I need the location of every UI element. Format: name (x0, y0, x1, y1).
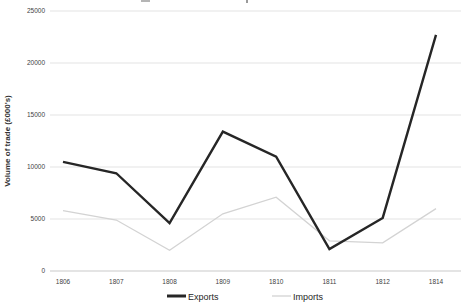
imports-legend-label: Imports (293, 292, 324, 302)
y-tick-label-25000: 25000 (27, 7, 45, 14)
legend: Exports Imports (167, 292, 324, 302)
x-tick-label-1810: 1810 (269, 278, 284, 285)
x-tick-label-1806: 1806 (56, 278, 71, 285)
x-tick-label-1812: 1812 (375, 278, 390, 285)
y-tick-label-0: 0 (41, 267, 45, 274)
y-axis-tick-labels: 0500010000150002000025000 (27, 7, 45, 274)
x-tick-label-1808: 1808 (162, 278, 177, 285)
x-tick-label-1809: 1809 (216, 278, 231, 285)
y-tick-label-10000: 10000 (27, 163, 45, 170)
line-chart-canvas: 0500010000150002000025000 18061807180818… (0, 0, 464, 308)
x-tick-label-1814: 1814 (429, 278, 444, 285)
imports-line (63, 197, 436, 250)
y-tick-label-15000: 15000 (27, 111, 45, 118)
y-axis-title: Volume of trade (£000's) (3, 95, 12, 187)
exports-legend-label: Exports (188, 292, 219, 302)
y-tick-label-20000: 20000 (27, 59, 45, 66)
x-axis-tick-labels: 18061807180818091810181118121814 (56, 278, 444, 285)
y-tick-label-5000: 5000 (31, 215, 46, 222)
exports-line (63, 35, 436, 249)
x-tick-label-1807: 1807 (109, 278, 124, 285)
series-lines (63, 35, 436, 250)
x-tick-label-1811: 1811 (322, 278, 336, 285)
trade-volume-chart: 0500010000150002000025000 18061807180818… (0, 0, 464, 308)
